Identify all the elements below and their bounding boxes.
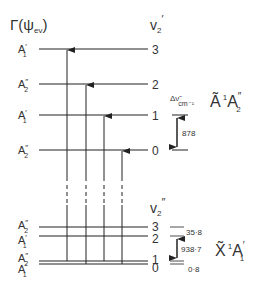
lower-level-symmetry: A′1 (18, 262, 27, 278)
lower-splitting-upper: 35·8 (186, 228, 203, 237)
transition-arrows (67, 50, 122, 264)
lower-v-header: v2″ (150, 196, 165, 218)
gamma-header: Γ(ψev) (10, 16, 47, 35)
lower-state-label: X̃1A′1 (215, 240, 245, 263)
delta-nu-label: Δν̃cm⁻¹ (170, 94, 195, 107)
upper-level-symmetry: A′1 (18, 42, 27, 58)
lower-level-symmetry: A″2 (18, 218, 28, 234)
upper-level-symmetry: A′1 (18, 108, 27, 124)
upper-level-symmetry: A″2 (18, 143, 28, 159)
upper-level-symmetry: A″2 (18, 77, 28, 93)
lower-state-levels: A″23A′12A″21A′10 (18, 218, 159, 278)
upper-level-vnumber: 0 (152, 144, 159, 158)
upper-state-label: Ã1A″2 (210, 91, 242, 114)
upper-level-vnumber: 2 (152, 78, 159, 92)
lower-splitting-lower: 0·8 (188, 265, 200, 274)
upper-v-header: v2′ (150, 13, 164, 35)
lower-level-vnumber: 2 (152, 232, 159, 246)
lower-spacing-value: 938·7 (181, 245, 202, 254)
energy-level-diagram: Γ(ψev) v2′ A′13A″22A′11A″20 A″23A′12A″21… (0, 0, 261, 300)
lower-level-symmetry: A′1 (18, 233, 27, 249)
upper-level-vnumber: 3 (152, 43, 159, 57)
lower-level-vnumber: 0 (152, 261, 159, 275)
upper-spacing-value: 878 (182, 129, 196, 138)
upper-level-vnumber: 1 (152, 109, 159, 123)
upper-state-levels: A′13A″22A′11A″20 (18, 42, 159, 159)
